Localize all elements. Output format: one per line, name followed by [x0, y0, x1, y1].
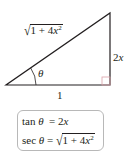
angle-arc	[31, 68, 36, 85]
sec-rhs-radicand: 1 + 4	[63, 134, 86, 146]
tan-identity: tan θ = 2x	[22, 115, 68, 127]
hypotenuse-radicand: 1 + 4	[31, 24, 54, 36]
adjacent-side-label: 1	[57, 90, 63, 101]
sec-rhs-exponent: 2	[90, 134, 94, 142]
right-angle-marker	[102, 77, 110, 85]
sec-function: sec	[22, 134, 36, 146]
angle-theta-label: θ	[38, 68, 43, 79]
opposite-side-label: 2x	[113, 52, 123, 63]
hypotenuse-exponent: 2	[58, 24, 62, 32]
radical-sign: √	[24, 23, 31, 37]
sec-theta: θ	[39, 134, 44, 146]
opposite-var: x	[119, 51, 124, 63]
tan-function: tan	[22, 115, 35, 127]
tan-theta: θ	[38, 115, 43, 127]
sec-identity: sec θ = √1 + 4x2	[22, 133, 95, 148]
hypotenuse-label: √1 + 4x2	[24, 24, 63, 36]
radical-sign: √	[56, 132, 63, 149]
identity-box: tan θ = 2x sec θ = √1 + 4x2	[17, 110, 104, 151]
sec-equals: =	[47, 134, 53, 146]
tan-rhs-var: x	[64, 115, 69, 127]
tan-equals: =	[49, 115, 55, 127]
